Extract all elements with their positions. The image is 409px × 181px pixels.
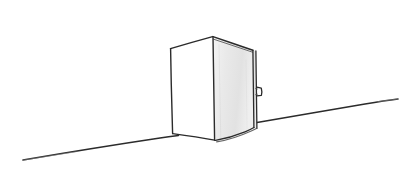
sketch-canvas	[0, 0, 409, 181]
ground-line-right-tail	[378, 99, 398, 102]
ground-line-left-tail	[23, 152, 76, 160]
ground-line-right	[257, 99, 398, 123]
door-frame-panel	[171, 37, 215, 141]
open-door-sketch	[0, 0, 409, 181]
